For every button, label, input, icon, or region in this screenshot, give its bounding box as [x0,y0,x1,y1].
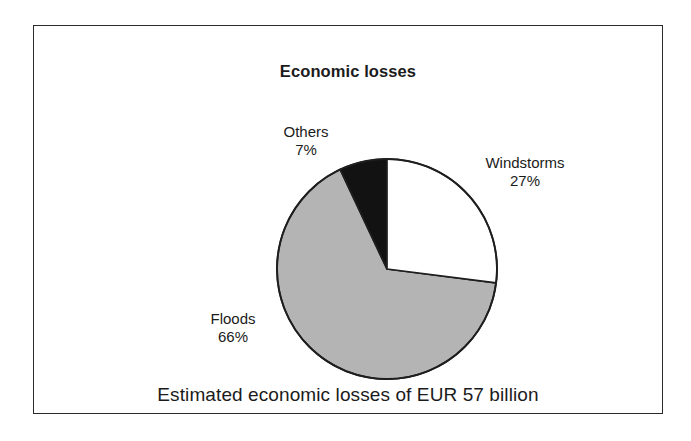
pie-label-floods-name: Floods [180,310,286,328]
pie-label-windstorms: Windstorms 27% [459,154,591,190]
pie-label-windstorms-name: Windstorms [459,154,591,172]
pie-label-floods-percent: 66% [180,328,286,346]
pie-label-others-name: Others [258,123,354,141]
pie-label-windstorms-percent: 27% [459,172,591,190]
pie-label-floods: Floods 66% [180,310,286,346]
figure-frame: Economic losses Others 7% Windstorms 27%… [33,25,663,414]
pie-label-others: Others 7% [258,123,354,159]
chart-caption: Estimated economic losses of EUR 57 bill… [34,384,662,406]
pie-label-others-percent: 7% [258,141,354,159]
page-title: Economic losses [34,62,662,81]
